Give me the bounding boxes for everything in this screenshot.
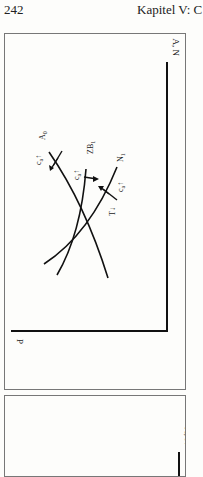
curve-zb1 xyxy=(57,169,86,275)
diagram-svg: A, N P A0 ca↑ ZB1 ca↑ N1 ca↑ T↓ xyxy=(5,34,185,389)
x-axis-label-2: A, N xyxy=(183,427,185,445)
curve-n1 xyxy=(44,167,117,264)
curve-label-zb1: ZB1 xyxy=(86,141,96,154)
x-axis-label: A, N xyxy=(171,39,181,57)
y-axis-label: P xyxy=(15,339,25,344)
shift-arrow-n1 xyxy=(98,186,104,191)
curve-label-a0: A0 xyxy=(38,131,48,140)
shift-label-zb1: ca↑ xyxy=(72,170,82,180)
curve-label-n1: N1 xyxy=(116,153,126,162)
shift-label-n1: ca↑ xyxy=(116,182,126,192)
tax-label: T↓ xyxy=(108,207,117,216)
figure-frame-2: A, N xyxy=(4,395,186,477)
figure-frame-1: A, N P A0 ca↑ ZB1 ca↑ N1 ca↑ T↓ xyxy=(4,33,186,390)
page-number: 242 xyxy=(4,2,24,18)
shift-label-a0: ca↑ xyxy=(34,155,44,165)
shift-arrow-zb1 xyxy=(93,176,99,182)
running-head: Kapitel V: C xyxy=(137,2,202,18)
